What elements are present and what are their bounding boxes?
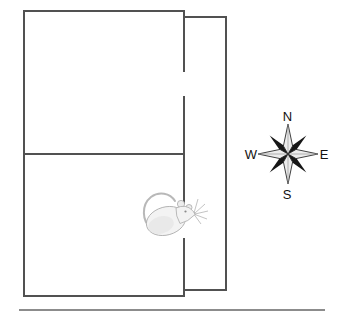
- rat-whiskers: [194, 199, 208, 224]
- compass-center: [287, 153, 290, 156]
- corridor-top-wall: [183, 16, 227, 18]
- rat-head: [176, 206, 195, 223]
- ground-line: [19, 309, 325, 311]
- compass-label-south: S: [283, 187, 292, 202]
- outer-chamber-top-wall: [23, 10, 185, 12]
- compass-label-north: N: [283, 109, 292, 124]
- chamber-divider-wall: [23, 153, 185, 155]
- rat-icon: [138, 186, 212, 252]
- shared-right-wall-upper: [183, 10, 185, 72]
- compass-label-west: W: [245, 147, 258, 162]
- corridor-right-wall: [225, 16, 227, 291]
- compass-rose-icon: N S W E: [243, 104, 335, 204]
- apparatus-diagram: N S W E: [0, 0, 342, 321]
- outer-chamber-bottom-wall: [23, 295, 185, 297]
- compass-label-east: E: [320, 147, 329, 162]
- corridor-bottom-wall: [183, 289, 227, 291]
- rat-eye: [184, 210, 186, 212]
